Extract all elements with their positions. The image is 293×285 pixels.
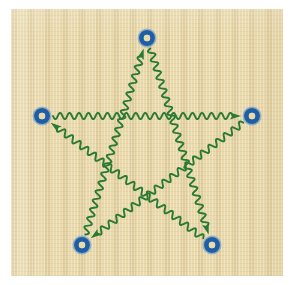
node-right[interactable] bbox=[243, 107, 260, 124]
wavy-edge-e3 bbox=[84, 56, 142, 234]
node-center bbox=[209, 242, 215, 248]
figure-root bbox=[0, 0, 293, 285]
node-bottom-right[interactable] bbox=[203, 236, 220, 253]
node-center bbox=[79, 242, 85, 248]
node-center bbox=[39, 113, 45, 119]
node-bottom-left[interactable] bbox=[73, 236, 90, 253]
edges-layer bbox=[53, 48, 243, 238]
node-center bbox=[144, 35, 150, 41]
nodes-layer bbox=[33, 29, 260, 253]
arrowhead-e1 bbox=[230, 113, 241, 120]
wavy-edge-e5 bbox=[57, 128, 204, 239]
caption-strip bbox=[0, 276, 293, 285]
wavy-edge-e1 bbox=[53, 113, 233, 119]
arrowhead-e4 bbox=[202, 223, 209, 235]
node-left[interactable] bbox=[33, 107, 50, 124]
node-center bbox=[249, 113, 255, 119]
arrowheads-layer bbox=[51, 48, 241, 238]
pentagram-graph bbox=[0, 0, 293, 285]
node-top[interactable] bbox=[138, 29, 155, 46]
